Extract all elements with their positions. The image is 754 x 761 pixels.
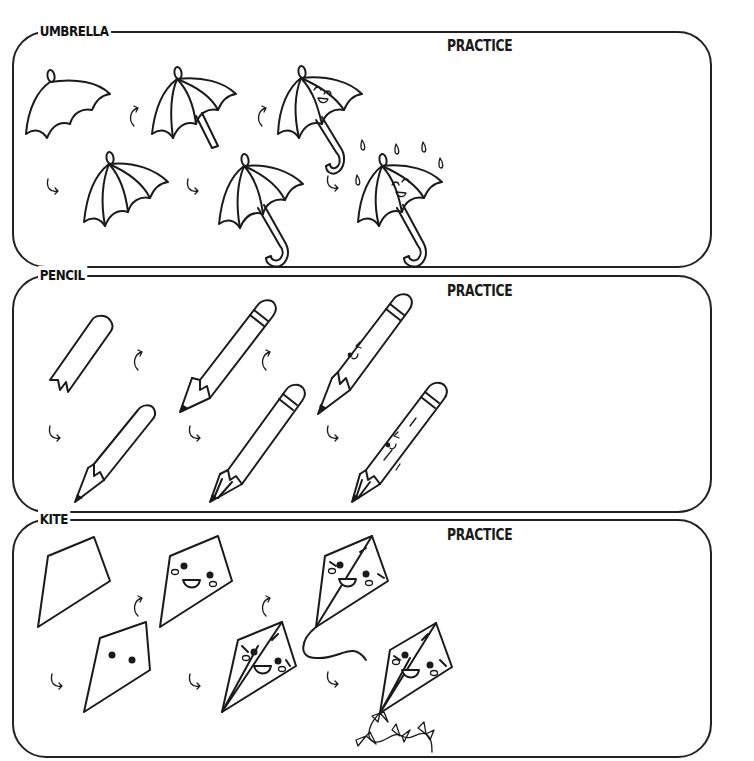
arrow-icon xyxy=(131,106,138,126)
umbrella-step-5 xyxy=(219,153,303,266)
kite-step-2 xyxy=(160,536,232,627)
pencil-step-4 xyxy=(75,405,155,502)
pencil-step-2 xyxy=(180,300,276,412)
arrow-icon xyxy=(135,350,142,370)
pencil-step-3 xyxy=(318,294,412,414)
arrow-icon xyxy=(327,426,338,441)
arrow-icon xyxy=(51,674,62,689)
arrow-icon xyxy=(327,176,338,191)
umbrella-step-6 xyxy=(356,140,443,267)
pencil-step-6 xyxy=(352,383,447,502)
kite-step-5 xyxy=(222,622,296,712)
umbrella-step-3 xyxy=(278,65,362,173)
arrow-icon xyxy=(189,674,200,689)
arrow-icon xyxy=(135,596,142,616)
umbrella-step-4 xyxy=(84,151,168,226)
kite-step-3 xyxy=(303,536,388,660)
kite-step-6 xyxy=(356,623,452,752)
arrow-icon xyxy=(189,426,200,441)
arrow-icon xyxy=(47,179,58,194)
drawing-steps-illustrations xyxy=(0,0,754,761)
arrow-icon xyxy=(259,106,266,126)
arrow-icon xyxy=(263,350,270,370)
umbrella-step-2 xyxy=(152,66,236,148)
pencil-step-5 xyxy=(210,385,305,502)
arrow-icon xyxy=(263,596,270,616)
kite-step-4 xyxy=(84,622,150,712)
umbrella-step-1 xyxy=(26,69,110,138)
pencil-step-1 xyxy=(50,316,112,392)
arrow-icon xyxy=(327,672,338,687)
arrow-icon xyxy=(187,179,198,194)
kite-step-1 xyxy=(38,537,110,627)
arrow-icon xyxy=(49,426,60,441)
